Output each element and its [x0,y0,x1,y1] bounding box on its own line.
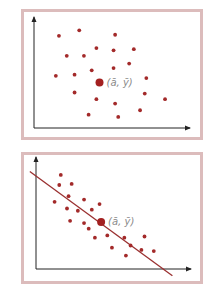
data-point [140,248,144,252]
data-point [124,254,128,258]
data-point [53,200,57,204]
data-point [144,76,148,80]
data-point [73,73,77,77]
data-point [105,234,109,238]
data-point [54,74,58,78]
data-point [122,236,126,240]
data-point [77,28,81,32]
data-point [59,173,63,177]
data-point [98,202,102,206]
scatter-diagrams: (ā, ȳ) (ā, ȳ) [0,0,218,299]
data-point [129,244,133,248]
data-point [57,183,61,187]
mean-label: (ā, ȳ) [108,216,134,227]
data-point [68,219,72,223]
data-point [70,182,74,186]
data-point [163,97,167,101]
data-point [82,54,86,58]
data-point [127,62,131,66]
data-point [93,236,97,240]
mean-point [97,218,105,226]
data-point [112,66,116,70]
data-point [73,91,77,95]
data-point [113,33,117,37]
data-point [132,47,136,51]
data-point [95,46,99,50]
data-point [113,102,117,106]
data-point [76,209,80,213]
mean-point [96,78,104,86]
data-point [95,97,99,101]
data-point [110,246,114,250]
data-point [87,113,91,117]
data-point [82,198,86,202]
data-point [143,235,147,239]
data-point [152,249,156,253]
scatter-plot-no-fit: (ā, ȳ) [34,17,190,128]
data-point [65,207,69,211]
data-point [138,108,142,112]
mean-label: (ā, ȳ) [107,77,133,88]
data-point [112,48,116,52]
data-point [67,194,71,198]
data-point [57,34,61,38]
data-point [82,221,86,225]
data-point [90,208,94,212]
scatter-plot-with-regression-line: (ā, ȳ) [30,157,191,276]
data-point [143,92,147,96]
data-point [65,54,69,58]
data-point [87,227,91,231]
data-point [116,115,120,119]
data-point [90,68,94,72]
